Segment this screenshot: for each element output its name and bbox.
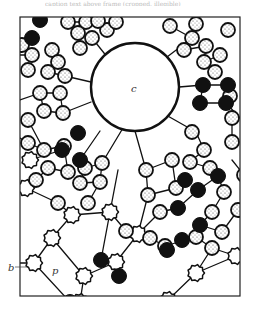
stippled-particle (61, 165, 75, 179)
stippled-particle (217, 185, 231, 199)
stippled-particle (21, 63, 35, 77)
stippled-particle (73, 41, 87, 55)
stippled-particle (143, 231, 157, 245)
stippled-particle (205, 241, 219, 255)
stippled-particle (73, 176, 87, 190)
stippled-particle (95, 156, 109, 170)
stippled-particle (139, 163, 153, 177)
stippled-particle (58, 69, 72, 83)
stippled-particle (119, 224, 133, 238)
spiky-particle (44, 230, 61, 247)
solid-particle (221, 78, 236, 93)
stippled-particle (41, 161, 55, 175)
stippled-particle (56, 106, 70, 120)
spiky-particle (188, 265, 205, 282)
stippled-particle (141, 188, 155, 202)
stippled-particle (85, 31, 99, 45)
stippled-particle (185, 125, 199, 139)
solid-particle (63, 295, 78, 309)
spiky-particle (64, 207, 81, 224)
label-c: c (131, 83, 137, 94)
spiky-particle (228, 248, 245, 265)
stippled-particle (41, 65, 55, 79)
stippled-particle (71, 26, 85, 40)
stippled-particle (37, 104, 51, 118)
stippled-particle (153, 205, 167, 219)
stippled-particle (163, 19, 177, 33)
stippled-particle (225, 111, 239, 125)
solid-particle (71, 126, 86, 141)
solid-particle (193, 218, 208, 233)
solid-particle (196, 78, 211, 93)
solid-particle (73, 153, 88, 168)
stippled-particle (21, 136, 35, 150)
stippled-particle (183, 155, 197, 169)
solid-particle (33, 13, 48, 28)
stippled-particle (208, 65, 222, 79)
stippled-particle (215, 225, 229, 239)
stippled-particle (21, 113, 35, 127)
solid-particle (193, 96, 208, 111)
solid-particle (191, 183, 206, 198)
stippled-particle (213, 48, 227, 62)
stippled-particle (81, 196, 95, 210)
spiky-particle (108, 254, 125, 271)
stippled-particle (225, 135, 239, 149)
solid-particle (219, 96, 234, 111)
stippled-particle (51, 196, 65, 210)
stippled-particle (177, 43, 191, 57)
stippled-particle (29, 173, 43, 187)
stippled-particle (33, 86, 47, 100)
stippled-particle (93, 175, 107, 189)
stippled-particle (91, 14, 105, 28)
spiky-particle (26, 255, 43, 272)
spiky-particle (76, 268, 93, 285)
solid-particle (55, 143, 70, 158)
solid-particle (160, 243, 175, 258)
spiky-particle (102, 204, 119, 221)
label-b: b (8, 262, 14, 273)
particle-network-diagram (0, 0, 254, 309)
stippled-particle (231, 203, 245, 217)
stippled-particle (237, 168, 251, 182)
stippled-particle (165, 153, 179, 167)
stippled-particle (25, 48, 39, 62)
spiky-particle (22, 152, 39, 169)
solid-particle (211, 169, 226, 184)
stippled-particle (53, 86, 67, 100)
solid-particle (112, 269, 127, 284)
stippled-particle (205, 205, 219, 219)
solid-particle (178, 173, 193, 188)
stippled-particle (197, 55, 211, 69)
solid-particle (175, 233, 190, 248)
stippled-particle (197, 143, 211, 157)
stippled-particle (189, 17, 203, 31)
solid-particle (171, 201, 186, 216)
spiky-particle (160, 292, 177, 309)
stippled-particle (199, 39, 213, 53)
label-p: p (52, 265, 58, 276)
stippled-particle (37, 143, 51, 157)
solid-particle (25, 31, 40, 46)
solid-particle (94, 253, 109, 268)
stippled-particle (221, 23, 235, 37)
